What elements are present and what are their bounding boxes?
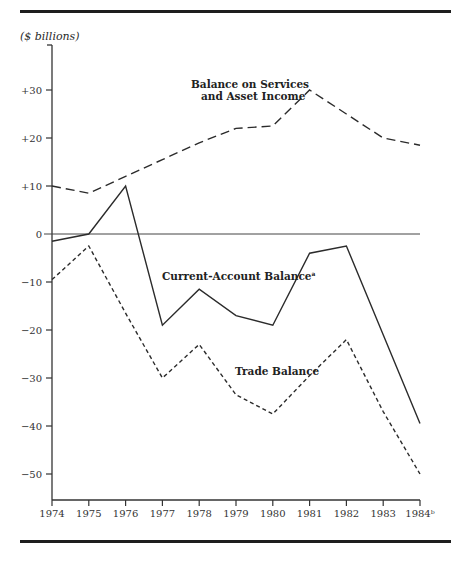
x-tick-label: 1975 bbox=[76, 508, 101, 519]
x-tick-label: 1981 bbox=[297, 508, 322, 519]
y-tick-label: +20 bbox=[21, 133, 42, 144]
series-line-0 bbox=[52, 90, 420, 193]
y-tick-label: +30 bbox=[21, 85, 42, 96]
x-tick-label: 1980 bbox=[260, 508, 285, 519]
bottom-rule bbox=[20, 540, 451, 543]
y-tick-label: −40 bbox=[21, 421, 42, 432]
y-tick-label: −10 bbox=[21, 277, 42, 288]
series-labels: Balance on Services and Asset Income Cur… bbox=[162, 78, 320, 377]
y-tick-label: 0 bbox=[36, 229, 42, 240]
x-tick-label: 1984ᵇ bbox=[405, 508, 434, 519]
series-lines bbox=[52, 90, 420, 474]
services-label-line1: Balance on Services bbox=[191, 78, 309, 90]
y-tick-label: −30 bbox=[21, 373, 42, 384]
series-line-1 bbox=[52, 186, 420, 424]
y-tick-label: −50 bbox=[21, 469, 42, 480]
y-tick-label: +10 bbox=[21, 181, 42, 192]
x-tick-label: 1976 bbox=[113, 508, 138, 519]
trade-balance-label: Trade Balance bbox=[235, 365, 320, 377]
x-tick-label: 1978 bbox=[186, 508, 211, 519]
x-tick-label: 1983 bbox=[370, 508, 395, 519]
axes: +30+20+100−10−20−30−40−50197419751976197… bbox=[21, 45, 435, 519]
y-tick-label: −20 bbox=[21, 325, 42, 336]
x-tick-label: 1974 bbox=[39, 508, 64, 519]
x-tick-label: 1977 bbox=[150, 508, 175, 519]
x-tick-label: 1982 bbox=[334, 508, 359, 519]
services-label-line2: and Asset Income bbox=[201, 90, 306, 102]
current-account-label: Current-Account Balancea bbox=[162, 270, 315, 282]
x-tick-label: 1979 bbox=[223, 508, 248, 519]
line-chart: +30+20+100−10−20−30−40−50197419751976197… bbox=[0, 0, 451, 561]
